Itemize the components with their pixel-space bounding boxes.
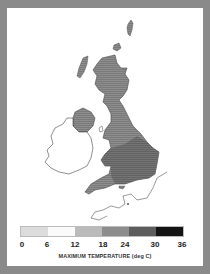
legend-bin-0-6 [21,227,48,236]
legend-bin-12-18 [75,227,102,236]
orkney-islands [113,43,121,51]
northern-ireland [73,108,95,132]
tick-label: 36 [178,240,187,250]
legend-axis-label: MAXIMUM TEMPERATURE (deg C) [7,253,203,259]
tick-label: 18 [99,240,108,250]
legend-ticks: 0 6 12 18 24 30 36 [7,240,203,250]
isle-of-wight [119,186,125,189]
legend-bin-18-24 [102,227,129,236]
legend-bin-6-12 [48,227,75,236]
tick-label: 24 [121,240,130,250]
isle-of-man [99,126,103,132]
legend-bin-24-30 [129,227,156,236]
tick-label: 6 [45,240,49,250]
map-panel: 0 6 12 18 24 30 36 MAXIMUM TEMPERATURE (… [7,8,203,266]
tick-label: 0 [20,240,24,250]
british-isles-map [7,8,203,226]
outer-hebrides [77,56,88,78]
channel-islands [127,203,129,205]
shetland-islands [127,20,133,36]
tick-label: 12 [71,240,80,250]
legend-bin-30-36 [156,227,183,236]
temperature-legend-bar [20,226,184,237]
tick-label: 30 [151,240,160,250]
